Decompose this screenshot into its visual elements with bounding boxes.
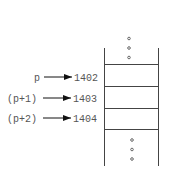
address-label: 1403 [73,94,97,105]
pointer-row-p1: (p+1) 1403 [7,94,97,105]
pointer-label: (p+1) [7,94,37,105]
memory-diagram: p 1402 (p+1) 1403 (p+2) 1404 [0,0,169,175]
address-label: 1402 [74,73,98,84]
pointer-label: (p+2) [7,114,37,125]
pointer-label: p [34,73,40,84]
pointer-row-p2: (p+2) 1404 [7,114,97,125]
ellipsis-bottom-icon [131,139,134,161]
address-label: 1404 [73,114,97,125]
ellipsis-top-icon [128,37,131,59]
pointer-row-p: p 1402 [34,73,98,84]
